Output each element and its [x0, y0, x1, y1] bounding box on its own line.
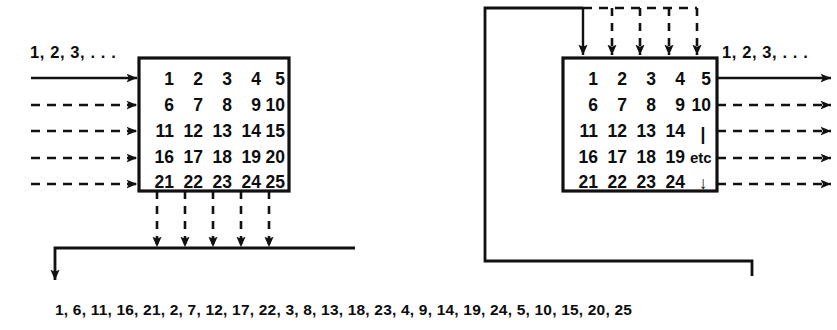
left-cell-r1c3: 3: [222, 69, 232, 89]
right-cell-r2c5: 10: [692, 95, 712, 115]
right-cell-r4c2: 17: [608, 147, 627, 167]
left-cell-r2c5: 10: [266, 95, 286, 115]
right-cell-r1c1: 1: [588, 69, 598, 89]
right-cell-r4c3: 18: [637, 147, 657, 167]
left-cell-r2c4: 9: [251, 95, 261, 115]
right-cell-r3c3: 13: [637, 121, 657, 141]
right-cell-r2c3: 8: [646, 95, 656, 115]
right-cell-r4c5-etc: etc: [690, 149, 712, 166]
right-cell-r3c2: 12: [608, 121, 628, 141]
left-cell-r1c2: 2: [193, 69, 203, 89]
right-cell-r3c1: 11: [580, 121, 599, 141]
left-cell-r5c3: 23: [213, 172, 233, 192]
figure-root: 1, 2, 3, . . . 1 2 3 4 5 6 7 8 9 10 11 1…: [0, 0, 837, 330]
left-cell-r2c3: 8: [222, 95, 232, 115]
left-cell-r5c4: 24: [242, 172, 262, 192]
left-cell-r4c1: 16: [155, 147, 175, 167]
left-cell-r4c5: 20: [266, 147, 286, 167]
left-cell-r5c5: 25: [266, 172, 286, 192]
right-cell-r1c3: 3: [646, 69, 656, 89]
left-cell-r1c4: 4: [251, 69, 261, 89]
right-cell-r1c4: 4: [675, 69, 685, 89]
right-cell-r3c5-continuation-bar: |: [701, 124, 706, 144]
left-cell-r2c2: 7: [193, 95, 203, 115]
left-cell-r1c1: 1: [164, 69, 174, 89]
right-cell-r5c4: 24: [666, 172, 686, 192]
diagram-canvas: 1, 2, 3, . . . 1 2 3 4 5 6 7 8 9 10 11 1…: [0, 0, 837, 330]
left-cell-r1c5: 5: [275, 69, 285, 89]
left-cell-r3c4: 14: [242, 121, 262, 141]
right-cell-r3c4: 14: [666, 121, 686, 141]
right-cell-r5c5-down-arrow: ↓: [699, 173, 708, 193]
left-cell-r4c2: 17: [184, 147, 203, 167]
left-cell-r5c2: 22: [184, 172, 204, 192]
left-cell-r3c5: 15: [266, 121, 286, 141]
left-input-label: 1, 2, 3, . . .: [30, 43, 116, 61]
right-cell-r2c1: 6: [588, 95, 598, 115]
right-cell-r4c4: 19: [666, 147, 686, 167]
left-cell-r3c1: 11: [156, 121, 175, 141]
right-output-label: 1, 2, 3, . . .: [722, 43, 808, 61]
right-cell-r1c5: 5: [701, 69, 711, 89]
right-diagram: 1 2 3 4 5 6 7 8 9 10 11 12 13 14 | 16 17…: [485, 8, 831, 276]
left-cell-r3c3: 13: [213, 121, 233, 141]
left-cell-r4c4: 19: [242, 147, 262, 167]
left-output-bus: [55, 248, 355, 280]
left-cell-r4c3: 18: [213, 147, 233, 167]
right-cell-r5c3: 23: [637, 172, 657, 192]
left-cell-r2c1: 6: [164, 95, 174, 115]
right-cell-r1c2: 2: [617, 69, 627, 89]
right-cell-r2c2: 7: [617, 95, 627, 115]
left-output-sequence: 1, 6, 11, 16, 21, 2, 7, 12, 17, 22, 3, 8…: [55, 301, 632, 318]
right-cell-r5c1: 21: [579, 172, 599, 192]
right-cell-r2c4: 9: [675, 95, 685, 115]
left-diagram: 1, 2, 3, . . . 1 2 3 4 5 6 7 8 9 10 11 1…: [30, 43, 632, 318]
right-cell-r5c2: 22: [608, 172, 628, 192]
left-cell-r5c1: 21: [155, 172, 175, 192]
left-cell-r3c2: 12: [184, 121, 204, 141]
right-cell-r4c1: 16: [579, 147, 599, 167]
